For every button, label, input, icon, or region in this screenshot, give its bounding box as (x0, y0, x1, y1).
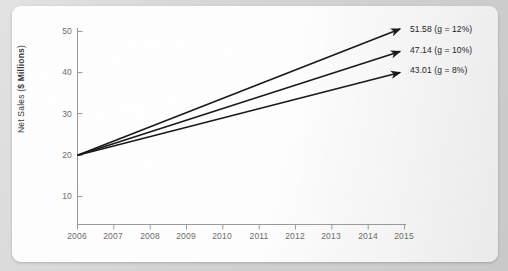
chart-screenshot: Net Sales ($ Millions) 50 40 30 20 10 20… (0, 0, 508, 271)
x-axis-ticks (78, 225, 405, 230)
y-axis-ticks (78, 32, 83, 197)
series-lines (78, 29, 401, 155)
series-line-10pct (78, 52, 401, 156)
plot-area (0, 0, 508, 271)
axis-lines (77, 28, 406, 225)
series-line-12pct (78, 29, 401, 155)
series-line-8pct (78, 73, 401, 156)
